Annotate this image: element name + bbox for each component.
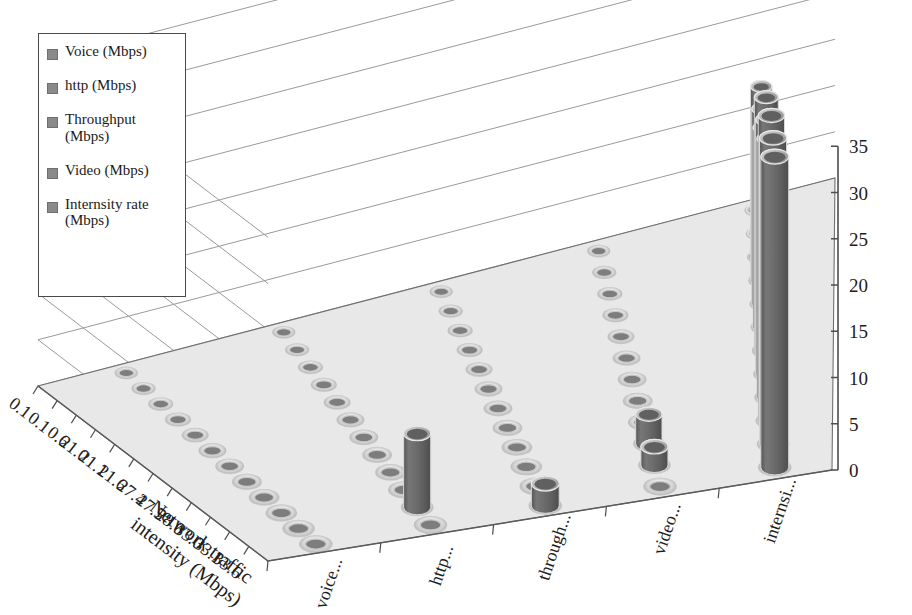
floor-socket-inner: [489, 404, 507, 413]
value-axis-tick-label: 15: [849, 321, 868, 342]
value-axis-tick-label: 35: [849, 136, 868, 157]
floor-socket-inner: [461, 346, 477, 354]
series-axis-tick: [267, 561, 268, 571]
legend-item-video[interactable]: Video (Mbps): [47, 162, 177, 179]
floor-socket-inner: [170, 416, 186, 424]
bar-cylinder: [641, 439, 668, 472]
value-axis-tick-label: 25: [849, 229, 868, 250]
depth-axis-tick: [225, 532, 230, 540]
depth-axis-tick: [91, 430, 96, 438]
floor-socket-inner: [480, 385, 498, 394]
series-axis-tick: [380, 543, 381, 553]
cylinder-top-hole: [758, 93, 776, 102]
value-axis-tick-label: 20: [849, 275, 868, 296]
cylinder-top-hole: [764, 152, 785, 163]
series-axis-tick-label: internsi...: [759, 475, 800, 545]
bar-cylinder: [404, 426, 431, 515]
floor-socket-inner: [303, 363, 319, 371]
value-axis-tick-label: 5: [849, 414, 859, 435]
floor-socket-inner: [119, 369, 134, 376]
cylinder-top-hole: [639, 410, 659, 420]
series-axis-tick: [493, 525, 494, 535]
floor-socket-inner: [452, 327, 468, 335]
value-axis-tick-label: 30: [849, 183, 868, 204]
floor-socket-inner: [316, 381, 332, 389]
depth-axis-tick: [52, 401, 57, 409]
legend-item-voice[interactable]: Voice (Mbps): [47, 43, 177, 60]
cylinder-body: [761, 149, 789, 475]
floor-socket-inner: [507, 443, 526, 452]
legend-label: http (Mbps): [65, 77, 136, 94]
legend-swatch-icon: [47, 168, 58, 179]
cylinder-top-hole: [407, 429, 428, 439]
floor-socket-inner: [355, 433, 373, 442]
value-axis-tick-label: 10: [849, 368, 868, 389]
legend-swatch-icon: [47, 202, 58, 213]
floor-socket-inner: [204, 446, 222, 455]
series-axis-tick-label: through...: [533, 511, 574, 583]
floor-socket-inner: [602, 290, 618, 298]
cylinder-top-hole: [754, 83, 769, 90]
depth-axis-tick: [244, 546, 249, 554]
floor-socket-inner: [618, 354, 636, 363]
depth-axis-tick: [110, 444, 115, 452]
legend-swatch-icon: [47, 49, 58, 60]
floor-socket-inner: [276, 329, 291, 336]
floor-socket-inner: [381, 468, 400, 477]
floor-socket-inner: [136, 385, 151, 392]
legend: Voice (Mbps) http (Mbps) Throughput (Mbp…: [38, 33, 186, 297]
chart-canvas: 051015202530350.10.10.621.021.121.627.42…: [0, 0, 912, 615]
floor-socket-inner: [238, 477, 257, 486]
series-axis-tick: [718, 488, 719, 498]
floor-socket-inner: [271, 508, 291, 518]
depth-axis-tick: [129, 459, 134, 467]
depth-axis-tick: [148, 474, 153, 482]
floor-socket-inner: [516, 462, 536, 472]
legend-label: Internsity rate (Mbps): [65, 196, 149, 230]
series-axis-tick-label: http...: [425, 542, 457, 588]
floor-socket-inner: [420, 520, 441, 530]
cylinder-top-hole: [535, 479, 556, 490]
legend-item-throughput[interactable]: Throughput (Mbps): [47, 111, 177, 145]
floor-socket-inner: [187, 431, 204, 439]
depth-axis-tick: [186, 503, 191, 511]
cylinder-top-hole: [644, 442, 665, 452]
value-axis-tick-label: 0: [849, 460, 859, 481]
floor-socket-inner: [305, 539, 326, 549]
floor-socket-inner: [329, 398, 346, 406]
legend-label: Video (Mbps): [65, 162, 149, 179]
bar-cylinder: [531, 476, 559, 513]
series-axis-tick-label: voice...: [310, 555, 346, 611]
series-axis-tick-label: video...: [649, 500, 685, 557]
floor-socket-inner: [443, 307, 458, 314]
floor-socket-inner: [471, 365, 488, 373]
floor-socket-inner: [254, 493, 273, 502]
floor-socket-inner: [289, 346, 304, 353]
floor-socket-inner: [597, 269, 612, 276]
legend-swatch-icon: [47, 117, 58, 128]
floor-socket-inner: [221, 462, 239, 471]
floor-socket-inner: [628, 396, 647, 405]
depth-axis-tick: [33, 386, 38, 394]
floor-socket-inner: [434, 288, 449, 295]
depth-axis-tick: [71, 415, 76, 423]
bar-cylinder: [761, 149, 789, 475]
legend-item-http[interactable]: http (Mbps): [47, 77, 177, 94]
floor-socket-inner: [607, 311, 623, 319]
depth-axis-tick: [167, 488, 172, 496]
floor-socket-inner: [649, 481, 670, 491]
floor-socket-inner: [368, 450, 387, 459]
cylinder-top-hole: [761, 111, 781, 121]
depth-axis-tick: [206, 517, 211, 525]
legend-swatch-icon: [47, 83, 58, 94]
floor-socket-inner: [498, 423, 517, 432]
cylinder-top-hole: [763, 133, 784, 143]
floor-socket-inner: [612, 333, 629, 341]
floor-socket-inner: [288, 524, 308, 534]
legend-item-intensity-rate[interactable]: Internsity rate (Mbps): [47, 196, 177, 230]
floor-socket-inner: [153, 400, 169, 408]
floor-socket-inner: [623, 375, 641, 384]
floor-socket-inner: [591, 248, 606, 255]
legend-label: Throughput (Mbps): [65, 111, 136, 145]
legend-label: Voice (Mbps): [65, 43, 147, 60]
